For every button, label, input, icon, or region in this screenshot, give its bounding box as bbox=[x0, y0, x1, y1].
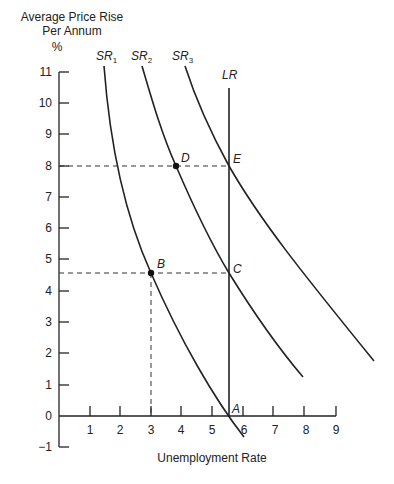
sr2-label: SR2 bbox=[131, 49, 153, 65]
x-tick-3: 3 bbox=[148, 423, 155, 437]
point-b-marker bbox=[148, 270, 154, 276]
y-tick-4: 4 bbox=[45, 284, 52, 298]
point-a-label: A bbox=[231, 402, 240, 416]
sr2-curve bbox=[142, 66, 303, 377]
x-tick-8: 8 bbox=[303, 423, 310, 437]
y-tick-3: 3 bbox=[45, 315, 52, 329]
point-b-label: B bbox=[157, 257, 165, 271]
y-axis-label-line3: % bbox=[52, 40, 63, 54]
y-tick-7: 7 bbox=[45, 190, 52, 204]
point-d-label: D bbox=[181, 151, 190, 165]
y-tick-labels: 11 10 9 8 7 6 5 4 3 2 1 0 −1 bbox=[38, 65, 52, 454]
sr1-curve bbox=[104, 66, 244, 437]
x-tick-4: 4 bbox=[178, 423, 185, 437]
points: D E B C A bbox=[148, 151, 242, 416]
y-tick-minus1: −1 bbox=[38, 440, 52, 454]
y-tick-2: 2 bbox=[45, 346, 52, 360]
y-tick-6: 6 bbox=[45, 221, 52, 235]
sr3-curve bbox=[185, 66, 374, 361]
x-tick-7: 7 bbox=[272, 423, 279, 437]
x-axis-label: Unemployment Rate bbox=[157, 451, 267, 465]
sr1-label: SR1 bbox=[96, 49, 118, 65]
y-tick-11: 11 bbox=[40, 65, 53, 79]
reference-lines bbox=[59, 166, 229, 416]
curves bbox=[104, 66, 374, 437]
y-tick-0: 0 bbox=[45, 409, 52, 423]
sr3-label: SR3 bbox=[172, 49, 194, 65]
y-axis-label-line2: Per Annum bbox=[42, 24, 101, 38]
point-d-marker bbox=[173, 163, 179, 169]
x-tick-5: 5 bbox=[209, 423, 216, 437]
y-tick-5: 5 bbox=[45, 252, 52, 266]
y-tick-1: 1 bbox=[45, 378, 52, 392]
x-tick-9: 9 bbox=[333, 423, 340, 437]
point-c-label: C bbox=[233, 262, 242, 276]
curve-labels: SR1 SR2 SR3 LR bbox=[96, 49, 238, 82]
y-axis-label-line1: Average Price Rise bbox=[21, 10, 124, 24]
axes bbox=[59, 72, 336, 447]
x-tick-2: 2 bbox=[117, 423, 124, 437]
point-e-label: E bbox=[233, 152, 242, 166]
y-tick-8: 8 bbox=[45, 159, 52, 173]
x-tick-labels: 1 2 3 4 5 6 7 8 9 bbox=[87, 423, 340, 437]
phillips-curve-chart: Average Price Rise Per Annum % 11 10 9 bbox=[0, 0, 394, 484]
y-tick-9: 9 bbox=[45, 127, 52, 141]
lr-label: LR bbox=[222, 68, 238, 82]
x-tick-1: 1 bbox=[87, 423, 94, 437]
y-tick-10: 10 bbox=[39, 96, 53, 110]
